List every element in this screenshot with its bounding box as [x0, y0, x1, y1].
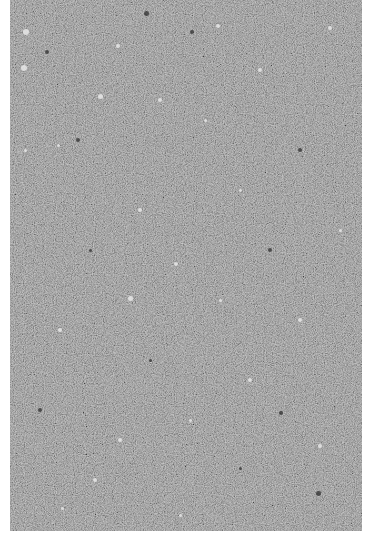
light-speck: [23, 29, 29, 35]
light-speck: [61, 507, 64, 510]
dark-speck: [38, 408, 42, 412]
dark-speck: [239, 467, 242, 470]
light-speck: [24, 149, 27, 152]
light-speck: [138, 208, 142, 212]
stone-texture: [10, 0, 362, 531]
image-canvas: [0, 0, 365, 547]
light-speck: [216, 24, 220, 28]
light-speck: [21, 65, 27, 71]
light-speck: [93, 478, 97, 482]
light-speck: [118, 438, 122, 442]
light-speck: [179, 514, 182, 517]
light-speck: [219, 299, 222, 302]
dark-speck: [298, 148, 302, 152]
dark-speck: [76, 138, 80, 142]
light-speck: [116, 44, 120, 48]
light-speck: [248, 378, 252, 382]
dark-speck: [190, 30, 194, 34]
dark-speck: [149, 359, 152, 362]
light-speck: [258, 68, 262, 72]
light-speck: [174, 262, 178, 266]
light-speck: [328, 26, 332, 30]
light-speck: [239, 189, 242, 192]
light-speck: [57, 144, 60, 147]
dark-speck: [279, 411, 283, 415]
light-speck: [58, 328, 62, 332]
light-speck: [339, 229, 342, 232]
dark-speck: [316, 491, 321, 496]
light-speck: [158, 98, 162, 102]
dark-speck: [45, 50, 49, 54]
light-speck: [128, 296, 133, 301]
dark-speck: [268, 248, 272, 252]
noise-layer: [10, 0, 362, 531]
light-speck: [98, 94, 103, 99]
dark-speck: [89, 249, 92, 252]
light-speck: [318, 444, 322, 448]
light-speck: [298, 318, 302, 322]
light-speck: [204, 119, 207, 122]
light-speck: [189, 419, 192, 422]
dark-speck: [144, 11, 149, 16]
